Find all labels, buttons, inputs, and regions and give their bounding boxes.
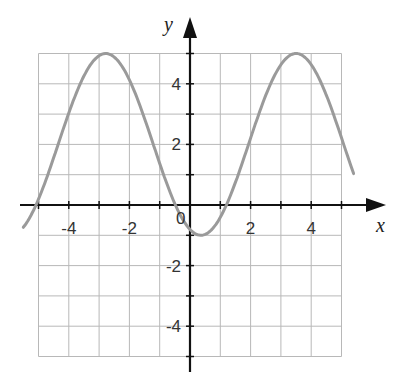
y-axis-label: y: [162, 13, 173, 36]
x-axis-arrow-icon: [366, 198, 386, 212]
y-tick-label: 2: [172, 135, 181, 154]
x-tick-label: -4: [61, 219, 76, 238]
x-tick-label: -2: [122, 219, 137, 238]
origin-label: 0: [176, 209, 185, 228]
x-axis-label: x: [375, 214, 385, 236]
x-tick-label: 2: [246, 219, 255, 238]
x-tick-label: 4: [306, 219, 315, 238]
y-tick-label: -4: [166, 317, 181, 336]
function-graph: -4-22442-2-4 0 x y: [0, 0, 399, 383]
y-tick-label: -2: [166, 257, 181, 276]
y-axis-arrow-icon: [183, 17, 197, 38]
y-tick-label: 4: [172, 75, 181, 94]
